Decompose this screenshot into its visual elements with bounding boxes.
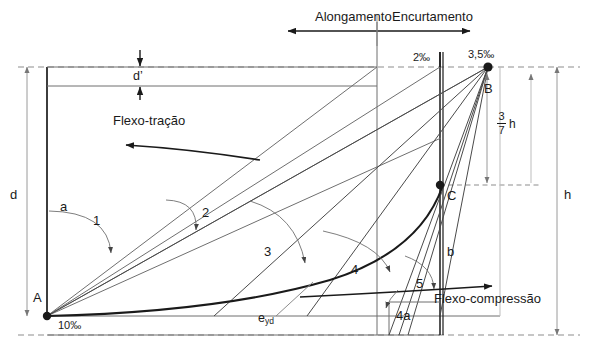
label-domain-1: 1: [93, 214, 100, 227]
point-C-marker: [436, 181, 444, 189]
label-h-dimension: h: [564, 188, 571, 201]
vertical-reference-lines: [377, 22, 500, 335]
label-eyd: eyd: [258, 312, 274, 326]
label-point-C: C: [447, 189, 456, 202]
point-A-marker: [43, 312, 51, 320]
eyd-leader-line: [276, 282, 313, 316]
label-domain-4: 4: [351, 263, 358, 276]
label-strain-2-permil: 2‰: [413, 52, 430, 63]
label-flexo-tracao: Flexo-tração: [113, 114, 185, 127]
label-region-a: a: [60, 200, 67, 213]
label-alongamento: Alongamento: [315, 10, 392, 23]
flexo-tracao-arrow: [126, 145, 260, 160]
label-domain-2: 2: [202, 206, 209, 219]
eyd-subscript: yd: [265, 316, 274, 326]
label-d-prime: d’: [133, 70, 143, 83]
label-d-dimension: d: [10, 188, 17, 201]
diagram-canvas: Alongamento Encurtamento 2‰ 3,5‰ 10‰ B C…: [0, 0, 598, 351]
label-point-B: B: [484, 82, 493, 95]
fraction-denominator: 7: [498, 125, 504, 136]
domain-arc-1: [49, 211, 111, 253]
label-domain-4a: 4a: [396, 309, 410, 322]
label-three-sevenths-h: 3 7 h: [497, 111, 516, 136]
label-domain-3: 3: [264, 245, 271, 258]
label-strain-3-5-permil: 3,5‰: [468, 49, 494, 60]
label-region-b: b: [447, 245, 454, 258]
point-B-marker: [483, 62, 492, 71]
label-point-A: A: [33, 291, 42, 304]
label-flexo-compressao: Flexo-compressão: [434, 292, 541, 305]
label-domain-5: 5: [416, 277, 423, 290]
eyd-base: e: [258, 311, 265, 325]
label-strain-10-permil: 10‰: [58, 320, 81, 331]
label-encurtamento: Encurtamento: [392, 10, 473, 23]
domain-arc-3: [250, 201, 305, 263]
fraction-numerator: 3: [498, 111, 504, 122]
fraction-unit: h: [509, 117, 516, 131]
